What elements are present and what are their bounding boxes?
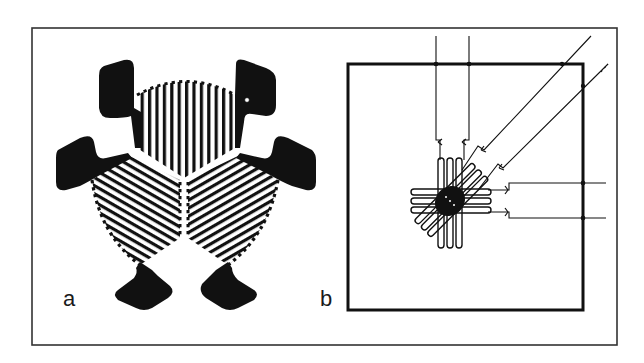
pad-bottom-left bbox=[115, 262, 173, 310]
panel-label-b: b bbox=[320, 288, 332, 310]
panel-b-stacked-rosette bbox=[348, 36, 608, 310]
pad-bottom-right bbox=[201, 262, 257, 310]
panel-label-a: a bbox=[63, 288, 75, 310]
top-grid-element bbox=[137, 70, 235, 180]
carrier-square bbox=[348, 64, 583, 310]
horizontal-leads bbox=[488, 181, 606, 220]
panel-a-rosette bbox=[56, 60, 316, 311]
pad-marker-dot bbox=[245, 98, 250, 103]
pad-top-left bbox=[99, 60, 141, 148]
vertical-leads bbox=[434, 36, 471, 160]
diagonal-leads bbox=[462, 36, 608, 190]
pad-top-right bbox=[235, 60, 276, 149]
stacked-grid-center bbox=[411, 158, 491, 248]
